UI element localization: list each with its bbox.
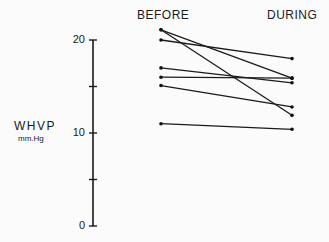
series-line — [161, 124, 292, 130]
series-line — [161, 77, 292, 78]
data-point — [159, 28, 163, 32]
data-point — [159, 84, 163, 88]
series-line — [161, 86, 292, 107]
data-point — [290, 127, 294, 131]
data-point — [159, 66, 163, 70]
series-line — [161, 40, 292, 59]
chart-plot — [0, 0, 329, 242]
data-point — [159, 122, 163, 126]
data-point — [159, 75, 163, 79]
data-point — [290, 57, 294, 61]
data-point — [290, 81, 294, 85]
data-point — [290, 114, 294, 118]
data-point — [290, 105, 294, 109]
series-line — [161, 68, 292, 83]
data-point — [290, 76, 294, 80]
series-line — [161, 30, 292, 78]
data-point — [159, 38, 163, 42]
